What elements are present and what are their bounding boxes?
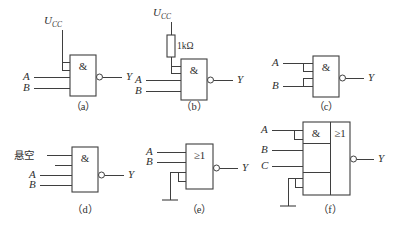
circuit-b-pullup-wire (171, 57, 181, 66)
circuit-b-resistor (167, 35, 175, 57)
circuit-f-and-symbol: & (312, 127, 321, 139)
circuit-a-output-bubble (97, 74, 103, 80)
circuit-e: A B ≥1 Y （e） (145, 144, 250, 215)
circuit-b-and-symbol: & (190, 64, 199, 76)
circuit-a-label-b: B (23, 81, 30, 93)
circuit-f-label-y: Y (378, 152, 386, 164)
circuit-a-pin-bridge (62, 62, 70, 70)
circuit-figure: UCC A B & Y （a） UCC (0, 0, 396, 233)
circuit-a-caption: （a） (71, 101, 96, 112)
circuit-b-pin-bridge (171, 66, 181, 73)
circuit-f-caption: （f） (318, 204, 342, 215)
circuit-d-label-y: Y (128, 168, 136, 180)
circuit-c-caption: （c） (314, 101, 339, 112)
circuit-b-label-b: B (135, 84, 142, 96)
circuit-a-and-symbol: & (79, 60, 88, 72)
circuit-f-ground-bridge (295, 178, 303, 187)
circuit-e-or-symbol: ≥1 (194, 149, 206, 161)
circuit-e-ground-bridge (178, 172, 186, 181)
circuit-b: UCC 1kΩ A B & Y （b） (134, 6, 245, 112)
circuit-f-output-bubble (351, 156, 357, 162)
circuit-canvas: UCC A B & Y （a） UCC (0, 0, 396, 233)
circuit-a-label-y: Y (126, 70, 134, 82)
circuit-f-label-a: A (260, 123, 268, 135)
circuit-b-caption: （b） (181, 101, 206, 112)
circuit-f-or-symbol: ≥1 (334, 127, 346, 139)
circuit-c-label-b: B (272, 79, 279, 91)
circuit-d-and-symbol: & (81, 152, 90, 164)
circuit-b-output-bubble (208, 77, 214, 83)
circuit-d-output-bubble (99, 172, 105, 178)
circuit-e-caption: （e） (187, 204, 212, 215)
circuit-c-label-a: A (271, 56, 279, 68)
circuit-c: A B & Y （c） (271, 56, 376, 112)
circuit-f-label-b: B (261, 143, 268, 155)
circuit-b-resistor-label: 1kΩ (177, 41, 194, 51)
circuit-a-vcc-label: UCC (44, 14, 63, 29)
circuit-c-input-b-bridge (303, 78, 313, 86)
circuit-d-caption: （d） (72, 204, 97, 215)
circuit-b-vcc-label: UCC (153, 6, 172, 21)
circuit-c-label-y: Y (368, 71, 376, 83)
circuit-e-output-bubble (214, 165, 220, 171)
circuit-f: A B C & ≥1 Y （f） (260, 122, 386, 215)
circuit-b-label-y: Y (237, 73, 245, 85)
circuit-d-label-b: B (29, 178, 36, 190)
circuit-d-floating-label: 悬空 (14, 149, 34, 161)
circuit-d: 悬空 A B & Y （d） (14, 147, 136, 215)
circuit-e-label-y: Y (242, 161, 250, 173)
circuit-a: UCC A B & Y （a） (22, 14, 134, 112)
circuit-c-output-bubble (340, 75, 346, 81)
circuit-e-label-b: B (146, 155, 153, 167)
circuit-f-label-c: C (261, 159, 269, 171)
circuit-c-input-a-bridge (303, 63, 313, 71)
circuit-a-vcc-wire (62, 30, 70, 62)
circuit-f-input-a-bridge (294, 130, 303, 139)
circuit-c-and-symbol: & (322, 61, 331, 73)
